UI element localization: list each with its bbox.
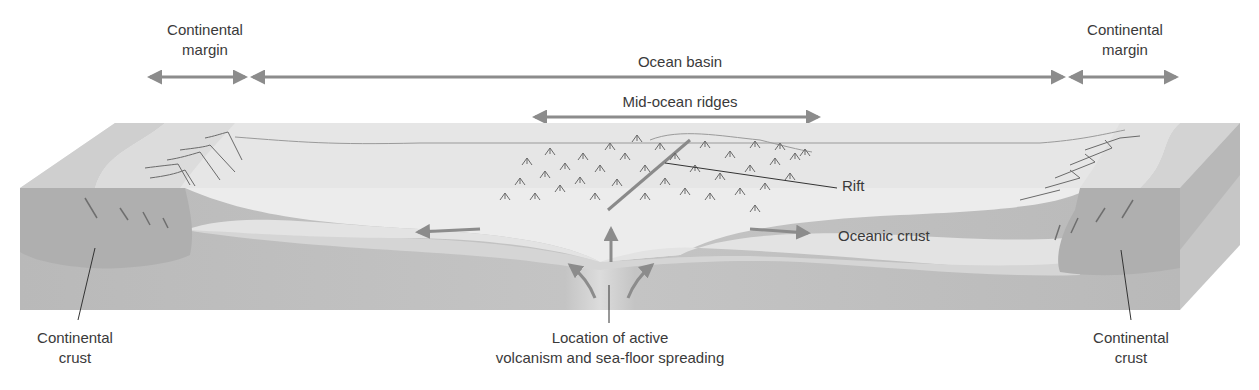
rift-label: Rift xyxy=(842,176,865,196)
continental-crust-left-label: Continental crust xyxy=(10,328,140,368)
continental-crust-right-label: Continental crust xyxy=(1066,328,1196,368)
ocean-basin-label: Ocean basin xyxy=(580,52,780,72)
volcanism-label: Location of active volcanism and sea-flo… xyxy=(460,328,760,368)
continental-margin-left-label: Continental margin xyxy=(140,20,270,60)
block-front xyxy=(20,188,1180,310)
oceanic-crust-label: Oceanic crust xyxy=(838,226,930,246)
continental-margin-right-label: Continental margin xyxy=(1060,20,1190,60)
mid-ocean-ridges-label: Mid-ocean ridges xyxy=(580,92,780,112)
